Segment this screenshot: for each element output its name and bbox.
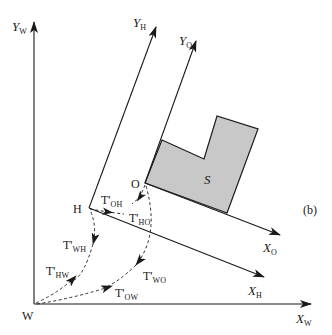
transform-path-ho xyxy=(90,209,124,214)
transform-label-wo: T'WO xyxy=(143,270,166,285)
x-w-label: XW xyxy=(296,312,312,328)
transform-label-oh: T'OH xyxy=(101,194,122,209)
coordinate-frames-diagram: YW YH YO XO XH XW W H O S (b) T'OH T'HO … xyxy=(0,0,332,335)
x-h-label: XH xyxy=(248,284,262,300)
shape-s xyxy=(145,116,258,213)
y-w-label: YW xyxy=(12,20,27,36)
transform-path-wh xyxy=(91,212,95,244)
shape-s-label: S xyxy=(204,173,211,186)
transform-path-ow xyxy=(37,286,112,304)
y-o-label: YO xyxy=(179,34,192,50)
origin-w-label: W xyxy=(22,310,33,322)
y-h-label: YH xyxy=(133,16,146,32)
transform-label-ow: T'OW xyxy=(115,287,138,302)
transform-label-ho: T'HO xyxy=(129,212,150,227)
transform-path-hw xyxy=(36,276,76,303)
transform-path-wo-cont xyxy=(108,265,136,286)
origin-o-label: O xyxy=(131,178,140,190)
origin-h-label: H xyxy=(73,203,82,215)
panel-label: (b) xyxy=(303,204,317,216)
transform-label-wh: T'WH xyxy=(63,239,86,254)
x-o-label: XO xyxy=(263,241,277,257)
transform-label-hw: T'HW xyxy=(46,265,69,280)
